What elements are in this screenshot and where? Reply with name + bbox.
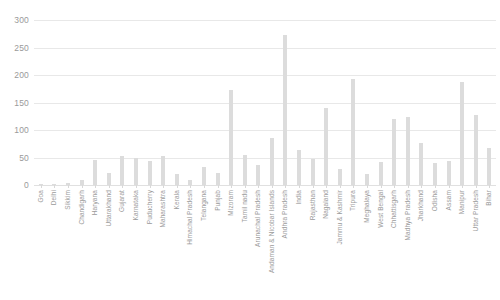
bar-slot <box>265 20 279 185</box>
bar-slot <box>75 20 89 185</box>
x-tick-label: Rajasthan <box>309 190 316 220</box>
x-tick-mark <box>299 185 300 188</box>
bar[interactable] <box>283 35 287 185</box>
bar[interactable] <box>351 79 355 185</box>
x-tick-slot: India <box>292 185 306 300</box>
x-tick-mark <box>367 185 368 188</box>
y-tick-label: 0 <box>24 180 29 190</box>
bar[interactable] <box>392 119 396 185</box>
bar-slot <box>333 20 347 185</box>
x-tick-mark <box>95 185 96 188</box>
plot-area <box>34 20 496 185</box>
bar[interactable] <box>270 138 274 185</box>
x-tick-slot: Tripura <box>347 185 361 300</box>
bar[interactable] <box>107 173 111 185</box>
x-tick-slot: Mizoram <box>224 185 238 300</box>
x-tick-slot: Maharashtra <box>156 185 170 300</box>
bar-slot <box>238 20 252 185</box>
x-tick-mark <box>340 185 341 188</box>
bar[interactable] <box>311 159 315 185</box>
x-tick-mark <box>218 185 219 188</box>
x-tick-mark <box>163 185 164 188</box>
x-tick-slot: Haryana <box>88 185 102 300</box>
x-tick-slot: Goa <box>34 185 48 300</box>
bar[interactable] <box>365 174 369 185</box>
bar-slot <box>143 20 157 185</box>
bar[interactable] <box>175 174 179 185</box>
x-tick-label: Himachal Pradesh <box>187 190 194 245</box>
y-tick-label: 150 <box>14 98 29 108</box>
bar-slot <box>211 20 225 185</box>
y-tick-label: 100 <box>14 125 29 135</box>
x-tick-mark <box>204 185 205 188</box>
y-tick-label: 200 <box>14 70 29 80</box>
bar[interactable] <box>216 173 220 185</box>
x-axis: GoaDelhiSikkimChandigarhHaryanaUttarakha… <box>34 185 496 300</box>
x-tick-label: Jharkhand <box>418 190 425 221</box>
x-tick-label: West Bengal <box>377 190 384 228</box>
x-tick-slot: Odisha <box>428 185 442 300</box>
bar[interactable] <box>379 162 383 185</box>
x-tick-slot: Nagaland <box>319 185 333 300</box>
x-tick-slot: Arunachal Pradesh <box>252 185 266 300</box>
bar-slot <box>442 20 456 185</box>
bar[interactable] <box>120 156 124 185</box>
x-tick-mark <box>285 185 286 188</box>
bar[interactable] <box>229 90 233 185</box>
x-tick-slot: Chandigarh <box>75 185 89 300</box>
bar[interactable] <box>161 156 165 185</box>
x-tick-mark <box>421 185 422 188</box>
x-tick-label: Bihar <box>486 190 493 206</box>
x-tick-label: Kerala <box>173 190 180 209</box>
x-tick-mark <box>408 185 409 188</box>
x-tick-mark <box>122 185 123 188</box>
bar-slot <box>415 20 429 185</box>
bar-slot <box>61 20 75 185</box>
x-tick-mark <box>82 185 83 188</box>
bar-slot <box>197 20 211 185</box>
bar-slot <box>252 20 266 185</box>
bar[interactable] <box>243 155 247 185</box>
x-tick-mark <box>326 185 327 188</box>
bar[interactable] <box>460 82 464 185</box>
x-tick-slot: Rajasthan <box>306 185 320 300</box>
bar[interactable] <box>324 108 328 185</box>
bar[interactable] <box>202 167 206 185</box>
x-tick-slot: Uttar Pradesh <box>469 185 483 300</box>
bar[interactable] <box>93 160 97 185</box>
bar-slot <box>387 20 401 185</box>
x-tick-slot: Chhattisgarh <box>387 185 401 300</box>
bar-slot <box>48 20 62 185</box>
bar[interactable] <box>487 148 491 185</box>
x-tick-slot: Delhi <box>48 185 62 300</box>
x-tick-label: Assam <box>445 190 452 210</box>
bar[interactable] <box>256 165 260 185</box>
x-tick-mark <box>150 185 151 188</box>
x-tick-label: Punjab <box>214 190 221 211</box>
bar[interactable] <box>447 161 451 185</box>
bar-slot <box>129 20 143 185</box>
x-tick-label: Arunachal Pradesh <box>255 190 262 247</box>
bar[interactable] <box>297 150 301 185</box>
x-tick-slot: Telangana <box>197 185 211 300</box>
x-tick-label: Chhattisgarh <box>391 190 398 228</box>
bar-slot <box>360 20 374 185</box>
bar-chart: 300250200150100500 GoaDelhiSikkimChandig… <box>0 0 500 300</box>
x-tick-label: Tripura <box>350 190 357 211</box>
x-tick-label: India <box>296 190 303 205</box>
x-tick-mark <box>381 185 382 188</box>
bar[interactable] <box>338 169 342 186</box>
x-tick-label: Odisha <box>432 190 439 211</box>
bar[interactable] <box>406 117 410 185</box>
x-tick-slot: Gujarat <box>116 185 130 300</box>
bar[interactable] <box>419 143 423 185</box>
x-tick-label: Puducherry <box>146 190 153 224</box>
bar[interactable] <box>148 161 152 185</box>
x-tick-label: Manipur <box>459 190 466 214</box>
x-tick-mark <box>190 185 191 188</box>
bar[interactable] <box>134 158 138 186</box>
x-tick-mark <box>435 185 436 188</box>
bar[interactable] <box>474 115 478 185</box>
bar[interactable] <box>433 163 437 185</box>
x-tick-label: Jammu & Kashmir <box>337 190 344 245</box>
